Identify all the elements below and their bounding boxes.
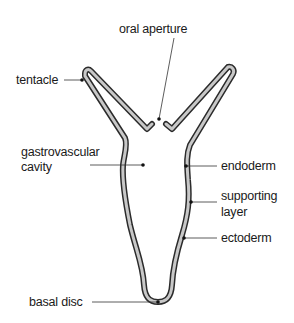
label-basal-disc: basal disc (29, 295, 83, 310)
label-supporting-line2: layer (221, 205, 247, 220)
label-gastrovascular-line2: cavity (21, 160, 52, 175)
dot-basal-disc (156, 300, 160, 304)
label-oral-aperture: oral aperture (119, 22, 187, 37)
label-endoderm: endoderm (221, 159, 276, 174)
label-gastrovascular-line1: gastrovascular (21, 145, 100, 160)
dot-supporting-layer (189, 200, 193, 204)
dot-ectoderm (182, 236, 186, 240)
dot-endoderm (184, 164, 188, 168)
dot-oral-aperture (157, 117, 161, 121)
label-ectoderm: ectoderm (221, 231, 272, 246)
leader-oral-aperture (159, 38, 174, 119)
dot-tentacle (80, 78, 84, 82)
label-tentacle: tentacle (16, 73, 58, 88)
dot-gastrovascular (141, 163, 145, 167)
body-wall (85, 67, 234, 302)
label-supporting-line1: supporting (221, 189, 277, 204)
